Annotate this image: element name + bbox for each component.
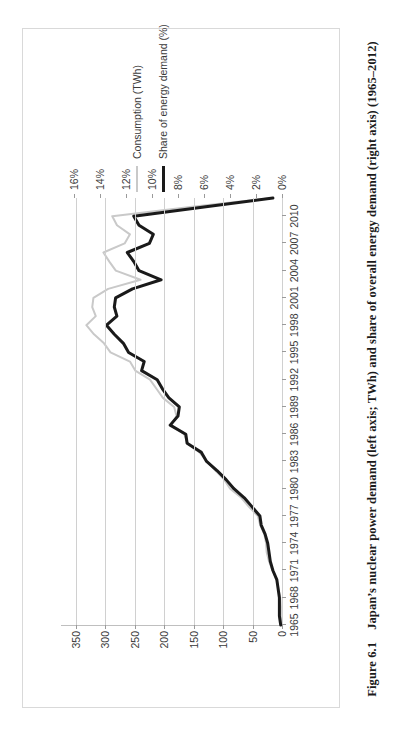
left-axis-tick-mark — [223, 625, 224, 629]
x-axis-tick-mark — [282, 215, 286, 216]
x-axis-tick-label: 1974 — [288, 532, 300, 555]
right-axis-tick-label: 0% — [276, 148, 288, 190]
left-axis-tick-mark — [135, 625, 136, 629]
left-axis-tick-mark — [76, 625, 77, 629]
left-axis-tick-mark — [164, 625, 165, 629]
right-axis-tick-label: 4% — [224, 148, 236, 190]
right-axis-tick-label: 6% — [198, 148, 210, 190]
left-axis-tick-label: 0 — [276, 631, 288, 677]
plot-area: 0501001502002503003500%2%4%6%8%10%12%14%… — [61, 198, 283, 626]
right-axis-tick-mark — [74, 194, 75, 198]
gridline — [105, 198, 106, 625]
left-axis-tick-label: 250 — [129, 631, 141, 677]
left-axis-tick-mark — [194, 625, 195, 629]
legend-swatch-icon — [136, 166, 138, 192]
legend-item: Share of energy demand (%) — [157, 54, 169, 192]
x-axis-tick-label: 1986 — [288, 423, 300, 446]
left-axis-tick-label: 300 — [99, 631, 111, 677]
legend-label: Share of energy demand (%) — [157, 24, 169, 159]
right-axis-tick-mark — [152, 194, 153, 198]
gridline — [194, 198, 195, 625]
x-axis-tick-label: 1989 — [288, 395, 300, 418]
series-lines — [61, 198, 282, 625]
left-axis-tick-mark — [253, 625, 254, 629]
x-axis-tick-label: 1977 — [288, 504, 300, 527]
right-axis-tick-mark — [178, 194, 179, 198]
x-axis-tick-mark — [282, 242, 286, 243]
x-axis-tick-mark — [282, 406, 286, 407]
right-axis-tick-mark — [282, 194, 283, 198]
figure-number: Figure 6.1 — [365, 641, 379, 696]
book-page: 0501001502002503003500%2%4%6%8%10%12%14%… — [0, 0, 396, 737]
x-axis-tick-label: 2004 — [288, 259, 300, 282]
gridline — [253, 198, 254, 625]
gridline — [223, 198, 224, 625]
x-axis-tick-label: 1983 — [288, 450, 300, 473]
left-axis-tick-label: 50 — [247, 631, 259, 677]
x-axis-tick-label: 1980 — [288, 477, 300, 500]
dual-axis-line-chart: 0501001502002503003500%2%4%6%8%10%12%14%… — [35, 48, 327, 688]
legend-swatch-icon — [162, 166, 165, 192]
x-axis-tick-mark — [282, 460, 286, 461]
x-axis-tick-mark — [282, 433, 286, 434]
x-axis-tick-label: 2007 — [288, 232, 300, 255]
x-axis-tick-mark — [282, 624, 286, 625]
legend-item: Consumption (TWh) — [131, 54, 143, 192]
right-axis-tick-mark — [126, 194, 127, 198]
right-axis-tick-mark — [256, 194, 257, 198]
x-axis-tick-label: 1965 — [288, 613, 300, 636]
rotated-chart: 0501001502002503003500%2%4%6%8%10%12%14%… — [35, 48, 327, 688]
right-axis-tick-label: 2% — [250, 148, 262, 190]
x-axis-tick-label: 1968 — [288, 586, 300, 609]
x-axis-tick-label: 1992 — [288, 368, 300, 391]
right-axis-tick-mark — [230, 194, 231, 198]
x-axis-tick-label: 2001 — [288, 286, 300, 309]
x-axis-tick-mark — [282, 542, 286, 543]
x-axis-tick-mark — [282, 570, 286, 571]
x-axis-tick-label: 1998 — [288, 314, 300, 337]
left-axis-tick-label: 350 — [70, 631, 82, 677]
left-axis-tick-label: 150 — [188, 631, 200, 677]
right-axis-tick-label: 16% — [68, 148, 80, 190]
x-axis-tick-label: 1971 — [288, 559, 300, 582]
x-axis-tick-label: 2010 — [288, 204, 300, 227]
gridline — [76, 198, 77, 625]
right-axis-tick-mark — [100, 194, 101, 198]
legend-label: Consumption (TWh) — [131, 65, 143, 159]
x-axis-tick-label: 1995 — [288, 341, 300, 364]
x-axis-tick-mark — [282, 488, 286, 489]
chart-container: 0501001502002503003500%2%4%6%8%10%12%14%… — [22, 28, 340, 708]
gridline — [282, 198, 283, 625]
figure-caption-text: Japan’s nuclear power demand (left axis;… — [365, 41, 379, 630]
x-axis-tick-mark — [282, 270, 286, 271]
right-axis-tick-mark — [204, 194, 205, 198]
gridline — [135, 198, 136, 625]
x-axis-tick-mark — [282, 324, 286, 325]
x-axis-tick-mark — [282, 379, 286, 380]
chart-legend: Consumption (TWh)Share of energy demand … — [131, 54, 183, 192]
left-axis-tick-label: 200 — [158, 631, 170, 677]
x-axis-tick-mark — [282, 351, 286, 352]
x-axis-tick-mark — [282, 515, 286, 516]
x-axis-tick-mark — [282, 597, 286, 598]
left-axis-tick-mark — [105, 625, 106, 629]
left-axis-tick-label: 100 — [217, 631, 229, 677]
gridline — [164, 198, 165, 625]
left-axis-tick-mark — [282, 625, 283, 629]
right-axis-tick-label: 14% — [94, 148, 106, 190]
figure-caption: Figure 6.1Japan’s nuclear power demand (… — [352, 0, 392, 737]
x-axis-tick-mark — [282, 297, 286, 298]
